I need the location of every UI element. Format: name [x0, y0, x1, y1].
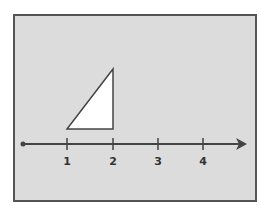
number-line-diagram: 1234 [0, 0, 261, 208]
diagram-frame [14, 15, 256, 201]
axis-origin-dot [21, 142, 26, 147]
tick-label: 4 [199, 155, 207, 168]
tick-label: 3 [154, 155, 162, 168]
tick-label: 1 [63, 155, 71, 168]
tick-label: 2 [109, 155, 117, 168]
